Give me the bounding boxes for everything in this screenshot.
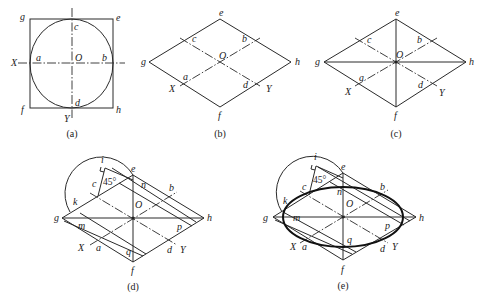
panel-a: g e c X a O b f d h Y (a) xyxy=(10,8,125,140)
label-X: X xyxy=(10,57,18,68)
label-d: d xyxy=(243,79,249,90)
label-c: c xyxy=(302,181,307,192)
label-k: k xyxy=(73,196,78,207)
label-O: O xyxy=(346,198,353,209)
parallel-line-lower-2 xyxy=(80,213,146,254)
label-Y: Y xyxy=(180,244,187,255)
label-a: a xyxy=(183,71,188,82)
label-i: i xyxy=(314,151,317,162)
caption-b: (b) xyxy=(214,128,226,140)
label-b: b xyxy=(417,34,422,45)
label-O: O xyxy=(219,50,226,61)
label-angle: 45° xyxy=(313,175,327,185)
label-c: c xyxy=(92,178,97,189)
label-e: e xyxy=(116,12,121,23)
label-g: g xyxy=(141,56,146,67)
label-e: e xyxy=(395,7,400,18)
right-angle-mark xyxy=(311,165,315,170)
label-Y: Y xyxy=(392,241,399,252)
center-point xyxy=(132,217,135,220)
caption-d: (d) xyxy=(127,281,139,293)
label-Y: Y xyxy=(266,83,273,94)
label-h: h xyxy=(295,56,300,67)
label-e: e xyxy=(131,163,136,174)
label-k: k xyxy=(283,195,288,206)
label-i: i xyxy=(101,154,104,165)
label-p: p xyxy=(176,221,182,232)
label-a: a xyxy=(36,52,41,63)
parallel-line-lower-1 xyxy=(275,220,352,254)
center-point xyxy=(342,216,345,219)
label-b: b xyxy=(242,33,247,44)
label-angle: 45° xyxy=(103,177,117,187)
label-d: d xyxy=(418,79,424,90)
label-Y: Y xyxy=(439,87,446,98)
label-e: e xyxy=(341,161,346,172)
caption-a: (a) xyxy=(66,128,77,140)
label-O: O xyxy=(75,52,82,63)
label-d: d xyxy=(75,97,81,108)
label-X: X xyxy=(77,242,85,253)
label-q: q xyxy=(126,246,131,257)
panel-c: e c b g O h a X d Y f (c) xyxy=(315,7,474,140)
label-g: g xyxy=(20,11,25,22)
label-b: b xyxy=(380,181,385,192)
label-c: c xyxy=(74,21,79,32)
label-h: h xyxy=(419,212,424,223)
label-n: n xyxy=(141,179,146,190)
label-h: h xyxy=(469,56,474,67)
parallel-line-upper xyxy=(318,167,410,221)
label-c: c xyxy=(192,33,197,44)
label-m: m xyxy=(293,212,300,223)
isometric-ellipse-construction-diagram: g e c X a O b f d h Y (a) e c b g O h a … xyxy=(0,0,483,296)
center-point xyxy=(395,61,398,64)
label-m: m xyxy=(78,220,85,231)
label-b: b xyxy=(102,52,107,63)
label-O: O xyxy=(396,49,403,60)
label-a: a xyxy=(302,241,307,252)
label-Y: Y xyxy=(64,113,71,124)
label-q: q xyxy=(347,234,352,245)
panel-d: i e 45° c n b k O g h m p X a q d Y f (d… xyxy=(54,154,212,293)
label-e: e xyxy=(219,7,224,18)
label-a: a xyxy=(96,242,101,253)
inscribed-circle xyxy=(30,19,113,108)
label-X: X xyxy=(168,83,176,94)
label-p: p xyxy=(384,220,390,231)
label-f: f xyxy=(341,264,345,275)
label-O: O xyxy=(135,199,142,210)
parallel-line-lower-1 xyxy=(64,221,143,256)
panel-b: e c b g O h a X d Y f (b) xyxy=(141,7,300,140)
label-f: f xyxy=(21,104,25,115)
label-g: g xyxy=(263,212,268,223)
label-g: g xyxy=(315,56,320,67)
label-d: d xyxy=(380,243,386,254)
label-X: X xyxy=(344,86,352,97)
label-d: d xyxy=(167,244,173,255)
label-h: h xyxy=(207,212,212,223)
label-b: b xyxy=(169,182,174,193)
label-a: a xyxy=(359,72,364,83)
right-angle-mark xyxy=(100,167,104,172)
label-f: f xyxy=(394,110,398,121)
panel-e: i e 45° c n b k O g m h p X a q d Y f (e… xyxy=(263,151,424,292)
caption-c: (c) xyxy=(390,128,401,140)
label-X: X xyxy=(289,241,297,252)
label-c: c xyxy=(367,34,372,45)
label-n: n xyxy=(337,186,342,197)
label-h: h xyxy=(116,104,121,115)
label-f: f xyxy=(131,265,135,276)
label-f: f xyxy=(218,110,222,121)
label-g: g xyxy=(54,212,59,223)
caption-e: (e) xyxy=(337,280,348,292)
